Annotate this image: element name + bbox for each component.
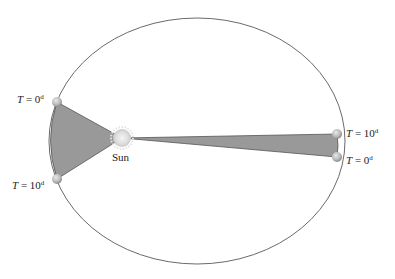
planet-right-top <box>332 129 342 139</box>
label-right-bottom: T = 0d <box>346 155 373 166</box>
label-left-top: T = 0d <box>17 94 44 105</box>
sector-aphelion <box>122 134 338 157</box>
label-left-bottom: T = 10d <box>12 180 44 191</box>
sun-icon <box>111 127 133 149</box>
planet-left-top <box>52 97 62 107</box>
planet-right-bottom <box>332 152 342 162</box>
orbit-diagram <box>0 0 395 279</box>
sector-perihelion <box>51 102 123 179</box>
label-right-top: T = 10d <box>346 128 378 139</box>
planet-left-bottom <box>52 174 62 184</box>
sun-label: Sun <box>112 152 129 163</box>
